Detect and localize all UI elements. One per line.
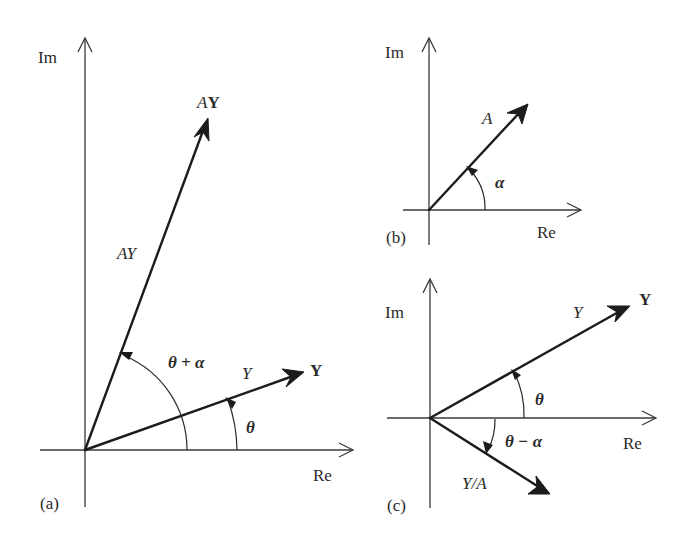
panel-c-angle-theta-minus-alpha <box>483 419 495 454</box>
panel-a-caption: (a) <box>40 494 59 513</box>
panel-c-re-label: Re <box>623 434 642 453</box>
panel-c-Y-magnitude-label: Y <box>573 303 584 322</box>
panel-c-caption: (c) <box>387 496 406 515</box>
panel-c-vector-Y <box>430 306 630 418</box>
arrowhead-icon <box>528 476 550 494</box>
panel-c-im-label: Im <box>385 303 404 322</box>
panel-a-angle-theta <box>225 397 237 450</box>
panel-b-vector-A <box>429 104 528 210</box>
panel-c-Y-over-A-label: Y/A <box>462 474 487 493</box>
panel-b-im-label: Im <box>385 43 404 62</box>
panel-b: Im Re A α (b) <box>385 38 581 247</box>
panel-c-Y-phasor-label: Y <box>639 290 651 309</box>
panel-c-theta-minus-alpha-label: θ − α <box>505 432 543 451</box>
panel-a: Im Re AY AY Y Y θ + α θ (a) <box>38 38 353 513</box>
arc-arrowhead-icon <box>466 166 478 176</box>
panel-c-im-axis <box>423 279 437 508</box>
panel-b-A-label: A <box>481 109 493 128</box>
panel-c-re-axis <box>387 411 656 425</box>
panel-b-caption: (b) <box>386 228 406 247</box>
panel-a-re-label: Re <box>313 466 332 485</box>
panel-a-im-label: Im <box>38 48 57 67</box>
panel-b-angle-alpha <box>466 166 485 210</box>
panel-c-vector-Y-over-A <box>430 418 550 494</box>
panel-a-Y-phasor-label: Y <box>310 361 322 380</box>
panel-a-Y-magnitude-label: Y <box>242 364 253 383</box>
panel-b-alpha-label: α <box>495 173 505 192</box>
panel-a-AY-phasor-label: AY <box>196 93 220 112</box>
phasor-diagram-figure: Im Re AY AY Y Y θ + α θ (a) Im Re A α ( <box>0 0 693 540</box>
panel-c: Im Re Y Y Y/A θ θ − α (c) <box>385 279 656 515</box>
panel-b-im-axis <box>422 38 436 245</box>
panel-a-theta-label: θ <box>246 418 255 437</box>
panel-a-AY-magnitude-label: AY <box>116 244 137 263</box>
panel-a-vector-AY <box>85 118 209 450</box>
panel-a-vector-Y <box>85 369 304 450</box>
arrowhead-icon <box>607 306 630 322</box>
panel-b-re-label: Re <box>537 223 556 242</box>
panel-c-theta-label: θ <box>535 390 544 409</box>
panel-a-theta-plus-alpha-label: θ + α <box>168 353 205 372</box>
panel-c-angle-theta <box>511 369 524 418</box>
